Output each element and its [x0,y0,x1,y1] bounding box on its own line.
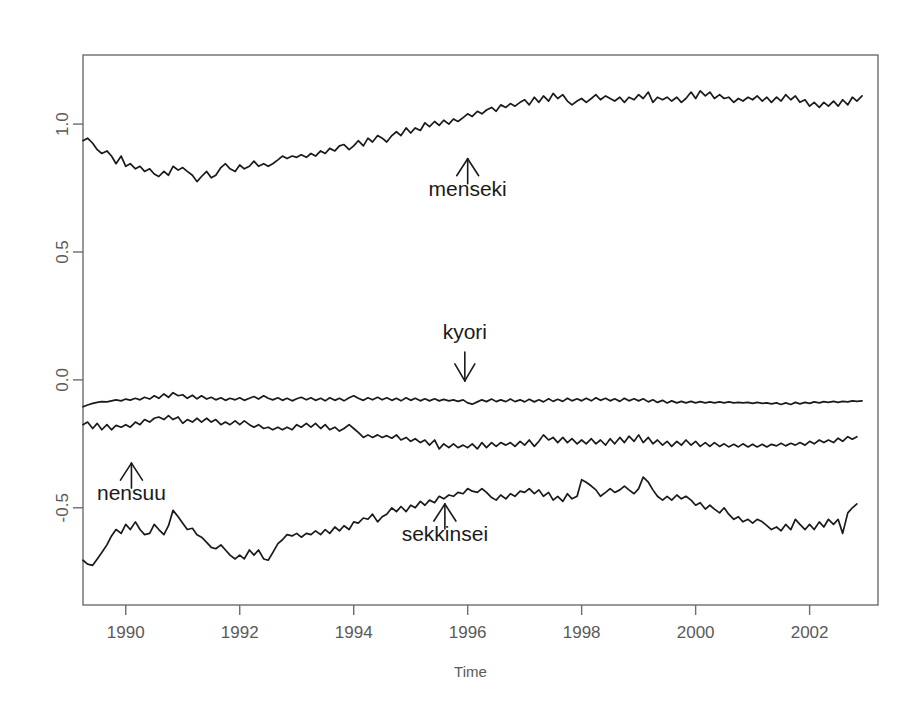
x-tick-label: 1994 [335,623,373,642]
x-tick-label: 1992 [221,623,259,642]
x-tick-label: 1996 [449,623,487,642]
y-tick-label: 0.0 [54,368,73,392]
x-tick-label: 1990 [107,623,145,642]
arrow-head-left [455,364,465,381]
y-tick-label: 1.0 [54,112,73,136]
x-tick-label: 2002 [791,623,829,642]
arrow-head-right [468,159,479,176]
x-tick-label: 2000 [677,623,715,642]
series-line-nensuu [83,416,857,449]
x-tick-label: 1998 [563,623,601,642]
arrow-kyori [455,352,475,381]
series-annotation-kyori: kyori [443,320,487,343]
chart-container: mensekikyorinensuusekkinsei 1.00.50.0-0.… [0,0,924,718]
arrow-head-left [434,504,445,521]
annotation-group: mensekikyorinensuusekkinsei [97,159,507,545]
arrow-head-right [131,463,142,480]
y-tick-label: 0.5 [54,240,73,264]
series-line-menseki [83,91,862,182]
arrow-head-left [457,159,468,176]
arrow-head-left [120,463,131,480]
x-axis-title: Time [454,663,487,680]
arrow-head-right [445,504,456,521]
line-chart-svg: mensekikyorinensuusekkinsei 1.00.50.0-0.… [0,0,924,718]
arrow-head-right [465,364,475,381]
y-tick-label: -0.5 [54,493,73,522]
series-line-kyori [83,393,862,407]
